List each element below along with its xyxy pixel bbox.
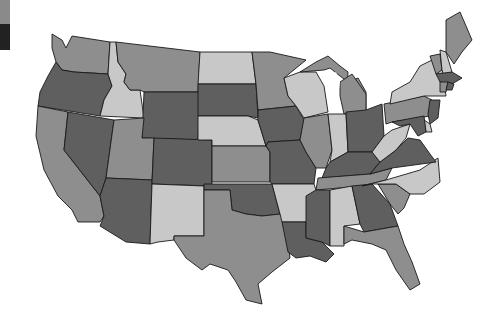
state-ME[interactable] bbox=[446, 12, 472, 64]
state-NM[interactable] bbox=[150, 184, 204, 244]
state-WY[interactable] bbox=[142, 92, 200, 140]
us-map bbox=[0, 0, 503, 321]
state-NJ[interactable] bbox=[428, 100, 440, 124]
state-MI-lower[interactable] bbox=[340, 74, 366, 114]
state-MS[interactable] bbox=[306, 190, 330, 246]
state-CO[interactable] bbox=[152, 138, 212, 186]
state-SD[interactable] bbox=[198, 84, 258, 118]
state-AZ[interactable] bbox=[100, 178, 152, 244]
state-MT[interactable] bbox=[116, 42, 200, 92]
state-FL[interactable] bbox=[344, 226, 420, 290]
state-KS[interactable] bbox=[212, 146, 270, 182]
lake-michigan bbox=[328, 72, 340, 104]
state-ND[interactable] bbox=[198, 52, 256, 84]
